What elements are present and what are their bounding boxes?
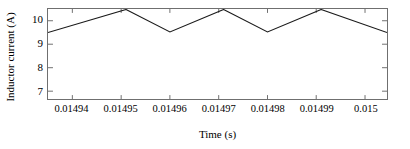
y-axis-tick-labels: 10 9 8 7 — [0, 8, 47, 100]
x-tick-label: 0.01495 — [104, 103, 138, 114]
x-axis-tick-labels: 0.01494 0.01495 0.01496 0.01497 0.01498 … — [47, 103, 388, 119]
inductor-current-figure: Inductor current (A) 10 9 8 7 — [0, 0, 410, 149]
y-tick-label: 7 — [3, 86, 47, 97]
y-tick-label: 8 — [3, 62, 47, 73]
inductor-current-plot — [48, 9, 387, 99]
x-tick-label: 0.01496 — [153, 103, 187, 114]
inductor-current-trace — [48, 9, 387, 32]
x-axis-ticks — [72, 9, 365, 99]
x-tick-label: 0.01497 — [202, 103, 236, 114]
y-axis-ticks — [48, 21, 387, 91]
x-tick-label: 0.01498 — [251, 103, 285, 114]
plot-area — [47, 8, 388, 100]
x-axis-title: Time (s) — [47, 128, 388, 140]
x-tick-label: 0.01499 — [300, 103, 334, 114]
x-tick-label: 0.015 — [354, 103, 378, 114]
x-tick-label: 0.01494 — [54, 103, 88, 114]
y-tick-label: 9 — [3, 38, 47, 49]
y-tick-label: 10 — [3, 14, 47, 25]
